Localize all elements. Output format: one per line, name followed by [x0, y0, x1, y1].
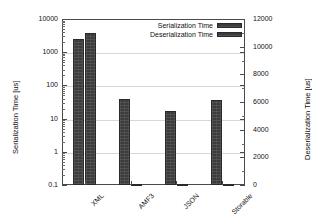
y-tick-minor: [62, 70, 65, 71]
y-tick-major: [62, 185, 67, 186]
y-tick-minor: [62, 132, 65, 133]
y-axis-right-tick-label: 2000: [253, 153, 269, 160]
y-tick-minor: [62, 42, 65, 43]
legend-item-serialization: Serialization Time: [143, 21, 242, 30]
y-axis-right-tick-label: 12000: [253, 15, 272, 22]
y2-tick-major: [240, 130, 245, 131]
y-tick-major-inner-right: [240, 152, 245, 153]
y2-tick-minor: [242, 171, 245, 172]
y2-tick-major: [240, 185, 245, 186]
legend-item-deserialization: Deserialization Time: [143, 30, 242, 39]
legend-label-deserialization: Deserialization Time: [150, 31, 213, 38]
y-tick-major: [62, 152, 67, 153]
y-tick-major: [62, 119, 67, 120]
y2-tick-minor: [242, 61, 245, 62]
legend-label-serialization: Serialization Time: [158, 22, 213, 29]
x-tick: [85, 181, 86, 185]
bar-deserialization: [85, 33, 96, 185]
y-tick-minor: [62, 95, 65, 96]
y-tick-minor: [62, 54, 65, 55]
y-tick-minor: [62, 103, 65, 104]
x-tick: [222, 181, 223, 185]
y-axis-left-tick-label: 100: [18, 81, 58, 88]
y-tick-minor: [62, 165, 65, 166]
legend-swatch-deserialization: [217, 32, 242, 37]
y-tick-minor: [62, 136, 65, 137]
y-tick-minor: [62, 99, 65, 100]
y-tick-minor: [62, 29, 65, 30]
bar-deserialization: [131, 184, 142, 186]
y-tick-major: [62, 19, 67, 20]
x-tick: [176, 181, 177, 185]
x-axis-label-storable: Storable: [230, 192, 253, 215]
y2-tick-minor: [242, 88, 245, 89]
y-tick-major: [62, 52, 67, 53]
y-tick-minor: [62, 60, 65, 61]
y2-tick-major: [240, 157, 245, 158]
y-tick-minor: [62, 124, 65, 125]
y-tick-minor: [62, 26, 65, 27]
bar-serialization: [73, 39, 84, 185]
y-tick-major-inner-right: [240, 119, 245, 120]
chart-figure: Serialization Time [us] Deserialization …: [0, 0, 312, 224]
x-axis-label-json: JSON: [182, 192, 200, 210]
y-tick-minor: [62, 62, 65, 63]
y2-tick-major: [240, 19, 245, 20]
y2-tick-minor: [242, 33, 245, 34]
y-tick-minor: [62, 55, 65, 56]
y-axis-right-tick-label: 4000: [253, 126, 269, 133]
y-tick-minor: [62, 120, 65, 121]
y-tick-minor: [62, 159, 65, 160]
x-axis-label-amf3: AMF3: [137, 192, 155, 210]
x-axis-label-xml: XML: [90, 192, 105, 207]
bar-serialization: [211, 100, 222, 185]
y-tick-minor: [62, 175, 65, 176]
y-axis-right-tick-label: 0: [253, 181, 257, 188]
y-axis-right-title: Deserialization Time [us]: [303, 78, 312, 160]
y-axis-right-tick-label: 8000: [253, 70, 269, 77]
y-tick-minor: [62, 157, 65, 158]
y-axis-left-tick-label: 1000: [18, 48, 58, 55]
x-tick: [131, 181, 132, 185]
bar-deserialization: [177, 184, 188, 186]
y-tick-minor: [62, 129, 65, 130]
y-tick-minor: [62, 22, 65, 23]
y-tick-minor: [62, 91, 65, 92]
y-tick-minor: [62, 89, 65, 90]
bar-deserialization: [223, 184, 234, 186]
y-axis-left-tick-label: 10: [18, 115, 58, 122]
y-tick-major-inner-right: [240, 52, 245, 53]
y-tick-minor: [62, 142, 65, 143]
y-tick-major-inner-right: [240, 85, 245, 86]
y-tick-major: [62, 85, 67, 86]
y-axis-left-tick-label: 1: [18, 148, 58, 155]
y-tick-minor: [62, 75, 65, 76]
y-tick-minor: [62, 126, 65, 127]
y-tick-minor: [62, 109, 65, 110]
y-axis-left-tick-label: 10000: [18, 15, 58, 22]
y-tick-minor: [62, 122, 65, 123]
y2-tick-major: [240, 74, 245, 75]
y2-tick-major: [240, 47, 245, 48]
y-axis-left-tick-label: 0.1: [18, 181, 58, 188]
legend-swatch-serialization: [217, 23, 242, 28]
y-tick-minor: [62, 153, 65, 154]
y-tick-minor: [62, 87, 65, 88]
y-tick-minor: [62, 169, 65, 170]
y-tick-minor: [62, 162, 65, 163]
y2-tick-minor: [242, 116, 245, 117]
bar-serialization: [119, 99, 130, 185]
y2-tick-major: [240, 102, 245, 103]
y-tick-minor: [62, 155, 65, 156]
bar-serialization: [165, 111, 176, 185]
y-tick-minor: [62, 24, 65, 25]
y-tick-minor: [62, 36, 65, 37]
y-tick-minor: [62, 93, 65, 94]
y-tick-minor: [62, 21, 65, 22]
y-tick-minor: [62, 32, 65, 33]
y-axis-right-tick-label: 6000: [253, 98, 269, 105]
y-tick-minor: [62, 65, 65, 66]
y2-tick-minor: [242, 144, 245, 145]
y-axis-right-tick-label: 10000: [253, 43, 272, 50]
chart-legend: Serialization Time Deserialization Time: [143, 21, 242, 39]
